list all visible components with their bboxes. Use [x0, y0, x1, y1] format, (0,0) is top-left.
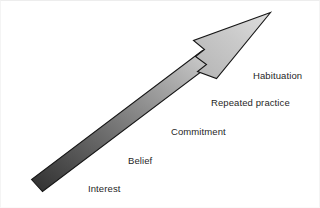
stage-label-interest: Interest — [88, 183, 120, 194]
arrow-shaft-group — [32, 51, 214, 192]
diagram-canvas: Habituation Repeated practice Commitment… — [0, 0, 320, 208]
stage-label-repeated-practice: Repeated practice — [211, 97, 290, 108]
stage-label-commitment: Commitment — [171, 126, 226, 137]
arrow-head-group — [194, 13, 271, 79]
stage-label-habituation: Habituation — [253, 70, 302, 81]
arrow-head — [194, 13, 271, 79]
arrow-shaft — [32, 51, 214, 192]
stage-label-belief: Belief — [128, 155, 152, 166]
